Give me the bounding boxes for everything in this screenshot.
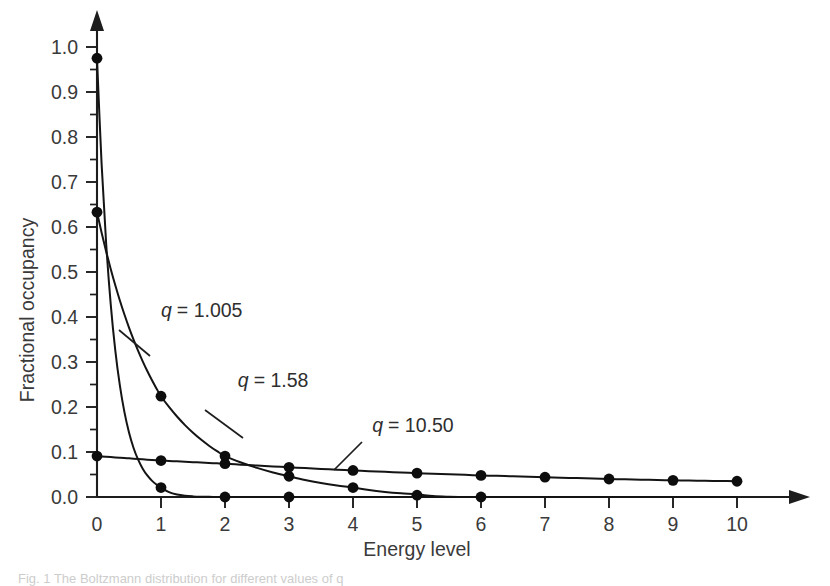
data-point xyxy=(668,475,679,486)
data-point xyxy=(732,476,743,487)
leader-line-q1050 xyxy=(334,442,362,470)
data-point xyxy=(284,462,295,473)
series-annotation-1: q= 1.005 xyxy=(161,299,243,321)
y-tick-label: 0.0 xyxy=(51,486,78,508)
data-point xyxy=(476,470,487,481)
data-point xyxy=(284,492,295,503)
data-point xyxy=(348,465,359,476)
y-tick-label: 0.5 xyxy=(51,261,78,283)
series-annotation-2: q= 1.58 xyxy=(238,369,309,391)
x-tick-label: 9 xyxy=(668,513,679,535)
annotation-q-symbol: q xyxy=(161,299,172,321)
x-axis-title: Energy level xyxy=(363,538,470,560)
leader-line-q158 xyxy=(205,410,243,438)
figure-caption: Fig. 1 The Boltzmann distribution for di… xyxy=(18,571,343,586)
curve-2 xyxy=(97,212,737,497)
data-point xyxy=(412,490,423,501)
data-point xyxy=(220,458,231,469)
data-point xyxy=(156,455,167,466)
y-tick-label: 0.9 xyxy=(51,81,78,103)
annotation-leader-lines xyxy=(119,330,362,470)
data-point xyxy=(604,474,615,485)
x-tick-label: 0 xyxy=(92,513,103,535)
series-annotations: q= 1.005q= 1.58q= 10.50 xyxy=(161,299,454,436)
annotation-q-value: = 1.58 xyxy=(254,369,309,391)
y-tick-label: 0.7 xyxy=(51,171,78,193)
x-tick-label: 8 xyxy=(604,513,615,535)
data-point xyxy=(92,451,103,462)
data-point xyxy=(92,207,103,218)
series-annotation-3: q= 10.50 xyxy=(372,414,454,436)
annotation-q-value: = 1.005 xyxy=(177,299,243,321)
data-point xyxy=(92,53,103,64)
y-axis-tick-labels: 0.00.10.20.30.40.50.60.70.80.91.0 xyxy=(51,36,78,508)
y-tick-label: 0.3 xyxy=(51,351,78,373)
data-point xyxy=(476,492,487,503)
leader-line-q1005 xyxy=(119,330,150,356)
y-tick-label: 1.0 xyxy=(51,36,78,58)
x-tick-label: 7 xyxy=(540,513,551,535)
data-point xyxy=(156,482,167,493)
x-tick-label: 5 xyxy=(412,513,423,535)
data-point xyxy=(540,472,551,483)
y-tick-label: 0.4 xyxy=(51,306,78,328)
x-axis-tick-labels: 012345678910 xyxy=(92,513,748,535)
x-tick-label: 3 xyxy=(284,513,295,535)
data-point xyxy=(348,482,359,493)
y-axis-title: Fractional occupancy xyxy=(16,218,38,403)
x-tick-label: 10 xyxy=(726,513,748,535)
x-tick-label: 6 xyxy=(476,513,487,535)
y-tick-label: 0.2 xyxy=(51,396,78,418)
x-axis-arrowhead xyxy=(789,490,810,504)
y-axis-arrowhead xyxy=(90,10,104,31)
annotation-q-symbol: q xyxy=(238,369,249,391)
data-point xyxy=(412,468,423,479)
x-tick-label: 1 xyxy=(156,513,167,535)
y-tick-label: 0.6 xyxy=(51,216,78,238)
data-point xyxy=(220,492,231,503)
y-tick-label: 0.8 xyxy=(51,126,78,148)
x-tick-label: 2 xyxy=(220,513,231,535)
x-axis-ticks xyxy=(161,497,737,508)
data-point xyxy=(156,391,167,402)
y-tick-label: 0.1 xyxy=(51,441,78,463)
x-tick-label: 4 xyxy=(348,513,359,535)
annotation-q-symbol: q xyxy=(372,414,383,436)
annotation-q-value: = 10.50 xyxy=(388,414,454,436)
